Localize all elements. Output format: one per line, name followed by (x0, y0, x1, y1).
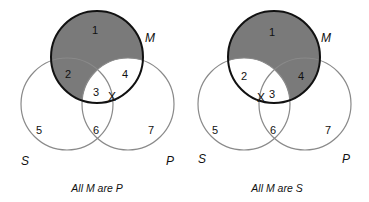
region-3-label: 3 (269, 88, 275, 100)
x-mark: X (108, 90, 116, 104)
set-label-s: S (198, 152, 206, 166)
set-label-s: S (21, 154, 29, 168)
region-5-label: 5 (212, 124, 218, 136)
region-6-label: 6 (270, 124, 276, 136)
region-7-label: 7 (148, 124, 154, 136)
region-4-label: 4 (122, 68, 128, 80)
region-7-label: 7 (325, 124, 331, 136)
region-5-label: 5 (36, 124, 42, 136)
venn-diagram-all-m-are-s: 1 2 3 4 5 6 7 X M S P All M are S (198, 0, 351, 194)
set-label-p: P (166, 154, 174, 168)
venn-diagram-all-m-are-p: 1 2 3 4 5 6 7 X M S P All M are P (21, 0, 174, 194)
region-3-label: 3 (93, 86, 99, 98)
region-2-label: 2 (65, 68, 71, 80)
x-mark: X (257, 91, 265, 105)
set-label-m: M (145, 31, 155, 45)
region-4-label: 4 (298, 70, 304, 82)
caption: All M are S (250, 182, 302, 194)
region-1-label: 1 (92, 24, 98, 36)
region-1-label: 1 (269, 26, 275, 38)
region-2-label: 2 (241, 70, 247, 82)
venn-diagrams: 1 2 3 4 5 6 7 X M S P All M are P 1 2 3 … (0, 0, 369, 202)
region-6-label: 6 (93, 124, 99, 136)
set-label-m: M (321, 31, 331, 45)
caption: All M are P (70, 182, 122, 194)
set-label-p: P (342, 152, 350, 166)
